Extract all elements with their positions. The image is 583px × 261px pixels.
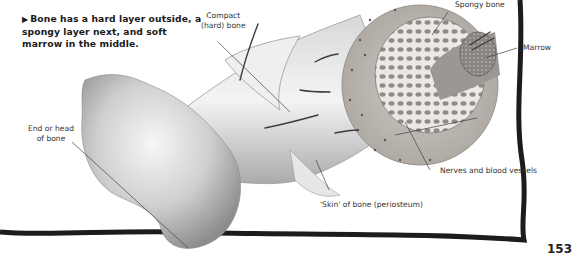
label-spongy-bone: Spongy bone [455, 0, 505, 10]
label-end-of-bone: End or head of bone [28, 124, 74, 144]
label-compact-line1: Compact [201, 11, 246, 21]
caption-text: ▶Bone has a hard layer outside, a spongy… [22, 13, 202, 50]
caption-body: Bone has a hard layer outside, a spongy … [22, 13, 201, 49]
label-periosteum: 'Skin' of bone (periosteum) [320, 200, 423, 210]
label-nerves-blood-vessels: Nerves and blood vessels [440, 166, 537, 176]
label-compact-line2: (hard) bone [201, 21, 246, 31]
page-number: 153 [547, 242, 572, 256]
label-end-line2: of bone [28, 134, 74, 144]
label-compact-bone: Compact (hard) bone [201, 11, 246, 31]
label-end-line1: End or head [28, 124, 74, 134]
label-marrow: Marrow [523, 43, 551, 53]
book-page: ▶Bone has a hard layer outside, a spongy… [0, 0, 583, 261]
triangle-bullet-icon: ▶ [22, 15, 28, 24]
